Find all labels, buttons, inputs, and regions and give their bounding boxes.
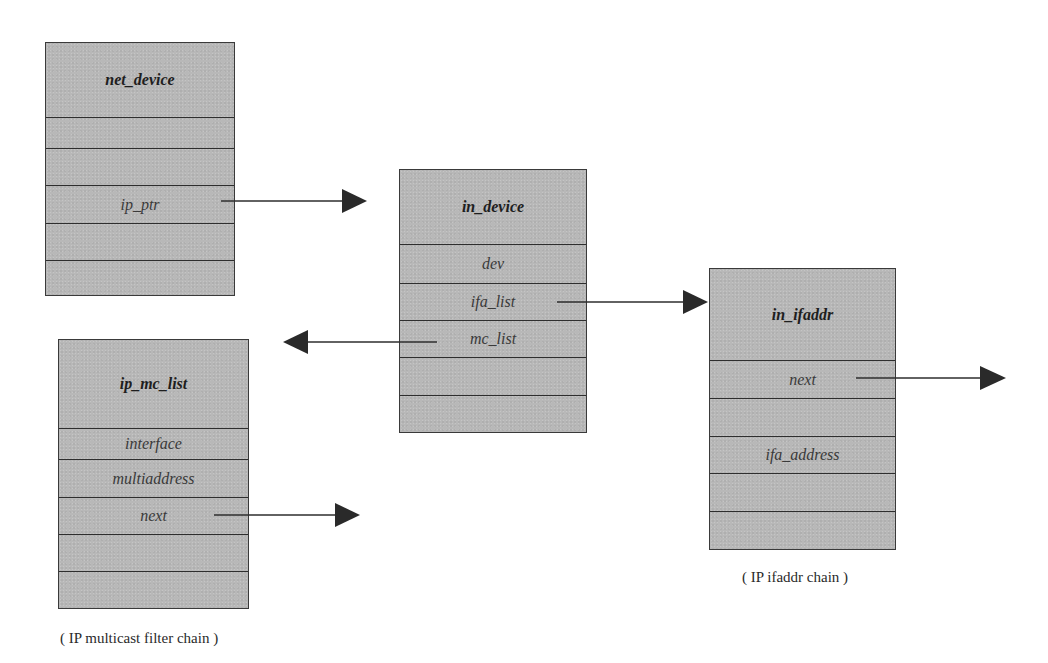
field-row [59,571,248,610]
field-row [710,511,895,551]
field-label: ip_ptr [120,196,159,214]
field-label: next [140,507,167,525]
field-label: interface [125,435,182,453]
field-row-next: next [59,497,248,534]
field-row-ip-ptr: ip_ptr [46,185,234,223]
field-row [400,357,586,395]
struct-in-ifaddr: in_ifaddr next ifa_address [709,268,896,550]
field-label: ifa_address [765,446,839,464]
field-row-ifa-address: ifa_address [710,436,895,473]
field-row [400,395,586,434]
field-row-ifa-list: ifa_list [400,283,586,320]
field-row [710,473,895,511]
field-row-multiaddress: multiaddress [59,459,248,497]
struct-title-cell: ip_mc_list [59,340,248,428]
struct-title: net_device [105,71,174,89]
field-label: next [789,371,816,389]
field-row [46,148,234,185]
field-row-mc-list: mc_list [400,320,586,357]
field-row-next: next [710,360,895,398]
struct-ip-mc-list: ip_mc_list interface multiaddress next [58,339,249,609]
field-row-dev: dev [400,244,586,283]
arrow-ip-ptr-to-in-device [221,189,367,213]
field-row-interface: interface [59,428,248,459]
struct-in-device: in_device dev ifa_list mc_list [399,169,587,433]
field-row [46,117,234,148]
struct-title: in_device [462,198,524,216]
struct-title-cell: net_device [46,43,234,117]
struct-title: in_ifaddr [772,306,833,324]
field-label: ifa_list [471,293,515,311]
field-row [710,398,895,436]
field-label: mc_list [470,330,516,348]
field-row [46,260,234,297]
caption-multicast-filter-chain: ( IP multicast filter chain ) [60,630,218,647]
struct-title-cell: in_ifaddr [710,269,895,360]
field-row [46,223,234,260]
field-row [59,534,248,571]
struct-title-cell: in_device [400,170,586,244]
field-label: multiaddress [112,470,194,488]
field-label: dev [482,255,504,273]
struct-title: ip_mc_list [120,375,188,393]
caption-ifaddr-chain: ( IP ifaddr chain ) [742,569,848,586]
struct-net-device: net_device ip_ptr [45,42,235,296]
